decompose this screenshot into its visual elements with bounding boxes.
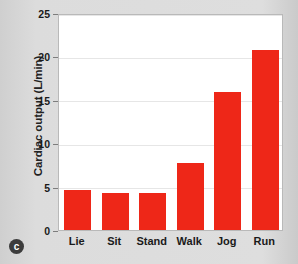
y-tick-label: 20 <box>28 52 50 63</box>
bar <box>64 190 91 230</box>
y-tick-label: 10 <box>28 139 50 150</box>
bar <box>177 163 204 230</box>
gridline <box>59 188 282 189</box>
y-tick-label: 0 <box>28 226 50 237</box>
bar <box>139 193 166 230</box>
y-tick-label: 15 <box>28 96 50 107</box>
gridline <box>59 15 282 16</box>
panel-letter-badge: c <box>9 239 24 254</box>
plot-area <box>59 15 282 230</box>
x-tick-label: Run <box>242 236 286 247</box>
bar <box>214 92 241 230</box>
y-tick-label: 25 <box>28 9 50 20</box>
y-tick-label: 5 <box>28 183 50 194</box>
y-axis-title: Cardiac output (L/min) <box>30 0 46 232</box>
plot-frame <box>58 14 283 231</box>
gridline <box>59 145 282 146</box>
bar <box>102 193 129 230</box>
gridline <box>59 58 282 59</box>
gridline <box>59 101 282 102</box>
bar <box>252 50 279 230</box>
y-tick-mark <box>53 231 58 232</box>
figure-panel: c Cardiac output (L/min) 0510152025 LieS… <box>0 0 298 264</box>
